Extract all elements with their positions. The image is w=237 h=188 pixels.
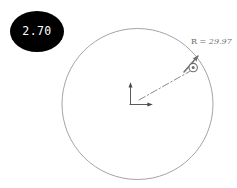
radius-value: 29.97 [209,37,232,46]
value-badge-text: 2.70 [22,26,51,38]
value-badge: 2.70 [10,11,64,52]
measured-circle [62,29,213,180]
radius-endpoint-marker [189,63,197,71]
figure-canvas: 2.70 R = 29.97 [0,0,237,188]
origin-axes-icon [129,82,153,106]
radius-label: R = 29.97 [191,38,232,46]
radius-dashdot-line [139,72,190,101]
radius-symbol: R = [191,37,206,46]
